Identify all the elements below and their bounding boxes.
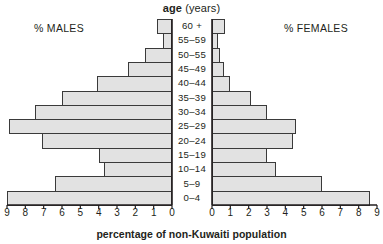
xtick-male-2: 2 [129,208,141,218]
age-label-45-49: 45–49 [164,64,220,74]
bar-female-0-4 [212,191,370,206]
bar-male-15-19 [99,148,172,163]
xtick-male-0: 0 [166,208,178,218]
age-label-15-19: 15–19 [164,150,220,160]
age-label-60-+: 60 + [164,21,220,31]
xtick-female-2: 2 [243,208,255,218]
xtick-male-7: 7 [38,208,50,218]
xtick-female-7: 7 [334,208,346,218]
bar-female-25-29 [212,119,296,134]
xtick-male-1: 1 [148,208,160,218]
xtick-female-4: 4 [279,208,291,218]
age-label-25-29: 25–29 [164,121,220,131]
bar-male-20-24 [42,133,172,148]
bar-female-30-34 [212,105,267,120]
x-axis-title: percentage of non-Kuwaiti population [0,228,383,240]
age-label-30-34: 30–34 [164,107,220,117]
bar-female-20-24 [212,133,293,148]
bar-female-10-14 [212,162,276,177]
bar-male-35-39 [62,91,172,106]
xtick-female-5: 5 [298,208,310,218]
age-label-55-59: 55–59 [164,35,220,45]
xtick-female-0: 0 [206,208,218,218]
population-pyramid-chart: age (years) % MALES % FEMALES 0–45–910–1… [0,0,383,244]
age-label-50-55: 50–55 [164,50,220,60]
xtick-female-3: 3 [261,208,273,218]
bar-male-5-9 [55,176,172,191]
xtick-male-8: 8 [19,208,31,218]
age-label-10-14: 10–14 [164,164,220,174]
xtick-female-8: 8 [353,208,365,218]
bar-male-30-34 [35,105,173,120]
xtick-male-9: 9 [1,208,13,218]
age-label-20-24: 20–24 [164,136,220,146]
xtick-male-4: 4 [93,208,105,218]
chart-title-rest: (years) [185,2,220,14]
females-panel-label: % FEMALES [284,22,348,34]
bar-female-5-9 [212,176,322,191]
xtick-male-3: 3 [111,208,123,218]
bar-female-15-19 [212,148,267,163]
xtick-female-9: 9 [371,208,383,218]
age-label-5-9: 5–9 [164,179,220,189]
xtick-male-6: 6 [56,208,68,218]
xtick-male-5: 5 [74,208,86,218]
xtick-female-6: 6 [316,208,328,218]
chart-title-bold: age [163,2,182,14]
bar-male-0-4 [7,191,172,206]
bar-male-25-29 [9,119,172,134]
chart-title: age (years) [0,2,383,14]
bar-male-10-14 [104,162,172,177]
bar-male-40-44 [97,76,172,91]
males-panel-label: % MALES [34,22,84,34]
age-label-40-44: 40–44 [164,78,220,88]
xtick-female-1: 1 [224,208,236,218]
age-label-0-4: 0–4 [164,193,220,203]
age-label-35-39: 35–39 [164,93,220,103]
